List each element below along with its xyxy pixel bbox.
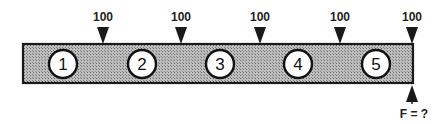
load-label: 100 <box>250 10 270 24</box>
node-4: 4 <box>284 50 312 78</box>
load-label: 100 <box>330 10 350 24</box>
node-1: 1 <box>49 50 77 78</box>
arrow-down-icon <box>334 27 346 44</box>
node-label: 1 <box>58 55 67 74</box>
node-3: 3 <box>206 50 234 78</box>
node-label: 3 <box>215 55 224 74</box>
arrow-down-icon <box>406 27 418 44</box>
reaction-force: F = ? <box>400 85 428 121</box>
load-1: 100 <box>93 10 113 44</box>
arrow-down-icon <box>254 27 266 44</box>
arrow-down-icon <box>97 27 109 44</box>
node-label: 4 <box>293 55 302 74</box>
node-5: 5 <box>362 50 390 78</box>
arrow-down-icon <box>175 27 187 44</box>
load-2: 100 <box>171 10 191 44</box>
reaction-label: F = ? <box>400 107 428 121</box>
beam-diagram: 1 2 3 4 5 100 100 100 100 100 F = ? <box>0 0 447 124</box>
load-4: 100 <box>330 10 350 44</box>
load-label: 100 <box>171 10 191 24</box>
load-label: 100 <box>402 10 422 24</box>
node-2: 2 <box>128 50 156 78</box>
load-3: 100 <box>250 10 270 44</box>
load-label: 100 <box>93 10 113 24</box>
node-label: 5 <box>371 55 380 74</box>
load-5: 100 <box>402 10 422 44</box>
node-label: 2 <box>137 55 146 74</box>
